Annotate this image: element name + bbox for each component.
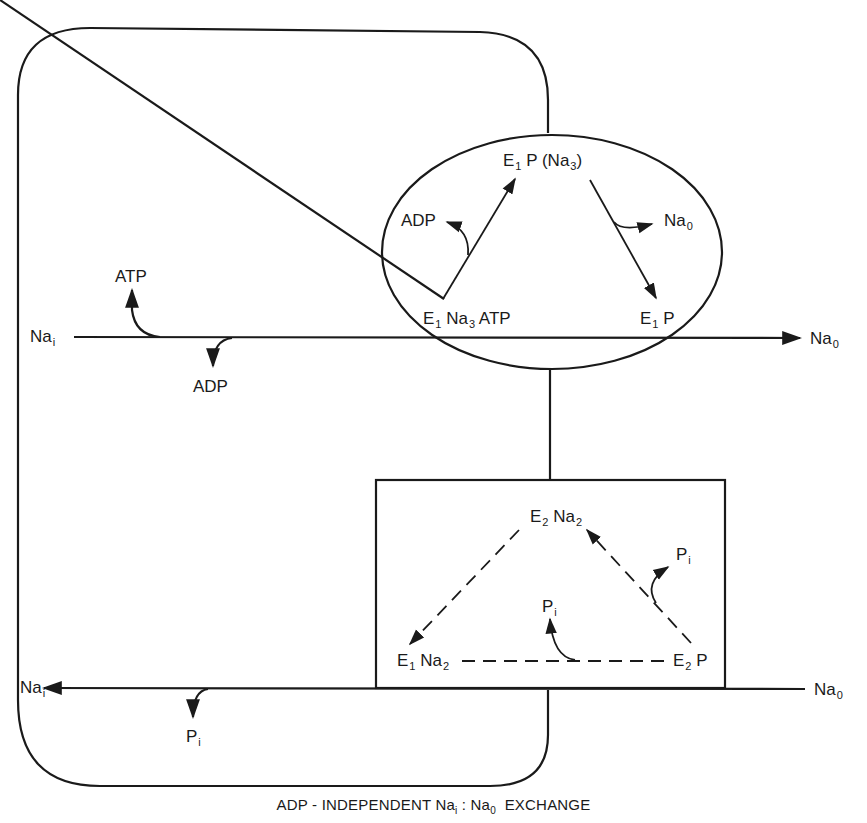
arrow-e1na3atp-to-e1pna3 [443,179,515,299]
pi-label-box-right: Pi [676,546,691,566]
lower-na-0-label: Na0 [814,681,843,701]
pi-label-lower-flux: Pi [186,728,201,748]
state-e1p: E1 P [640,310,675,330]
upper-flux-arrow [74,337,800,338]
state-e1na2: E1 Na2 [397,652,449,672]
lower-na-i-label: Nai [20,679,45,699]
upper-na-0-label: Na0 [810,330,839,350]
adp-output-arrow [213,338,232,366]
outer-loop-top [18,28,548,700]
state-e2p: E2 P [673,652,708,672]
adp-label-upper-flux: ADP [193,378,228,395]
pi-release-arrow-right [652,567,668,603]
dashed-arrow-e2na2-to-e1na2 [410,530,519,644]
lower-flux-arrow [44,688,805,689]
upper-na-i-label: Nai [30,328,55,348]
na0-label-ellipse: Na0 [664,212,693,232]
atp-input-arrow [132,290,160,337]
diagram-caption: ADP - INDEPENDENT Nai : Na0 EXCHANGE [0,796,867,816]
state-e2na2: E2 Na2 [530,508,582,528]
pi-label-box-bottom: Pi [542,598,557,618]
pi-output-arrow-lower [193,689,208,717]
na0-release-arrow [614,222,652,228]
pi-release-arrow-bottom [550,619,575,660]
state-e1p-na3: E1 P (Na3) [503,152,582,172]
arrow-e1na3atp-to-e1pna3 [0,0,444,299]
outer-loop-bottom [18,690,548,786]
state-e1na3atp: E1 Na3 ATP [423,310,511,330]
adp-label-ellipse: ADP [401,212,436,229]
adp-release-arrow [447,222,468,255]
atp-label: ATP [115,268,147,285]
arrow-e1pna3-to-e1p [590,180,656,298]
diagram-canvas [0,0,867,823]
